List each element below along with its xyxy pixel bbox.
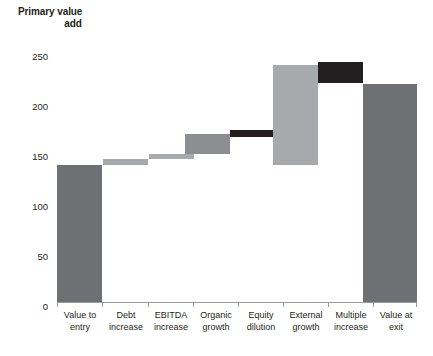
chart-title: Primary value add: [18, 6, 128, 30]
chart-title-line-2: add: [18, 18, 128, 30]
x-axis-label-value-at-exit: Value at exit: [370, 310, 422, 333]
y-axis-tick-100: 100: [32, 202, 48, 211]
y-axis-tick-50: 50: [37, 252, 48, 261]
bar-debt-increase: [103, 159, 148, 165]
x-axis-line: [57, 302, 417, 303]
bar-equity-dilution: [230, 130, 277, 137]
y-axis-tick-250: 250: [32, 52, 48, 61]
x-axis-tick-7: [373, 302, 374, 307]
bar-ebitda-increase: [149, 154, 194, 159]
x-axis-label-value-to-entry: Value to entry: [55, 310, 105, 333]
x-axis-labels: Value to entry Debt increase EBITDA incr…: [57, 310, 417, 354]
y-axis-tick-0: 0: [43, 302, 48, 311]
y-axis-tick-150: 150: [32, 152, 48, 161]
x-axis-tick-1: [102, 302, 103, 307]
x-axis-tick-8: [416, 302, 417, 307]
bar-external-growth: [273, 65, 318, 165]
x-axis-label-ebitda-increase: EBITDA increase: [146, 310, 196, 333]
y-axis-tick-200: 200: [32, 102, 48, 111]
x-axis-tick-3: [193, 302, 194, 307]
chart-title-line-1: Primary value: [18, 6, 128, 18]
bar-organic-growth: [185, 134, 230, 154]
x-axis-label-multiple-increase: Multiple increase: [326, 310, 376, 333]
x-axis-label-equity-dilution: Equity dilution: [236, 310, 286, 333]
y-axis: 250 200 150 100 50 0: [0, 52, 52, 304]
waterfall-chart: Primary value add 250 200 150 100 50 0: [0, 0, 433, 356]
x-axis-tick-0: [57, 302, 58, 307]
x-axis-tick-6: [328, 302, 329, 307]
plot-area: [57, 52, 417, 302]
x-axis-tick-2: [148, 302, 149, 307]
x-axis-tick-5: [283, 302, 284, 307]
bar-value-to-entry: [57, 165, 102, 302]
x-axis-tick-4: [238, 302, 239, 307]
x-axis-label-debt-increase: Debt increase: [101, 310, 151, 333]
x-axis-label-organic-growth: Organic growth: [191, 310, 241, 333]
x-axis-label-external-growth: External growth: [281, 310, 331, 333]
bar-value-at-exit: [363, 84, 417, 302]
bar-multiple-increase: [318, 62, 363, 83]
